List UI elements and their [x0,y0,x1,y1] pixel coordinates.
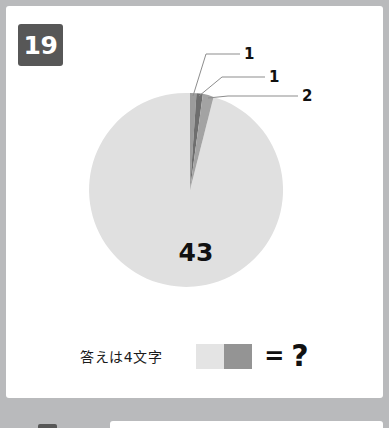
pie-callout-label-1-a: 1 [244,45,254,63]
leader-line-1-b [199,77,265,96]
pie-callout-label-1-b: 1 [269,68,279,86]
screen-background: 19 1 1 2 43 [0,0,389,428]
pie-center-value: 43 [179,238,214,267]
quiz-card: 19 1 1 2 43 [6,6,383,398]
leader-line-2 [208,96,298,98]
equals-sign: = [264,344,284,368]
next-question-number-badge-peek [38,424,57,428]
question-mark: ? [291,341,308,371]
next-quiz-card-peek[interactable] [110,421,383,428]
light-gray-swatch [196,344,224,369]
answer-hint-row: 答えは4文字 = ? [6,328,383,384]
leader-line-1-a [193,54,240,96]
medium-gray-swatch [224,344,252,369]
color-swatch-group [196,344,252,369]
answer-hint-text: 答えは4文字 [80,346,162,366]
pie-callout-label-2: 2 [302,87,312,105]
pie-chart-svg: 1 1 2 43 [6,6,383,326]
pie-chart: 1 1 2 43 [6,6,383,326]
